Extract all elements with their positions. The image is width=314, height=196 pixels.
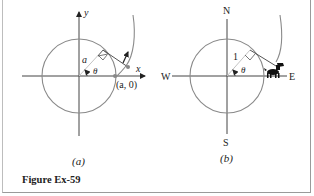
panel-a: y x a θ (a, 0) (a) [22,7,145,168]
north-label: N [223,5,230,16]
leash-line-b [250,50,276,66]
radius-line-b [227,50,250,76]
velocity-arrow-a [123,52,128,63]
figure-caption: Figure Ex-59 [22,174,80,185]
theta-label-b: θ [241,65,246,75]
angle-arc-a [85,70,87,76]
east-label: E [289,71,295,82]
figure-canvas: y x a θ (a, 0) (a) N [0,0,314,196]
x-axis-label: x [135,63,141,74]
panel-label-a: (a) [72,155,85,168]
y-axis-label: y [83,7,89,18]
involute-curve-a [116,15,134,77]
angle-arc-b [233,70,235,76]
point-a0 [113,74,117,78]
panel-b: N S W E 1 θ (b) [161,5,295,165]
point-label-a0: (a, 0) [116,79,137,91]
west-label: W [161,71,171,82]
south-label: S [223,137,229,148]
theta-label-a: θ [93,66,98,76]
involute-curve-b [276,15,282,62]
radius-label-b: 1 [233,51,238,62]
radius-label-a: a [82,54,87,65]
right-angle-box-b [245,54,255,60]
panel-label-b: (b) [220,152,233,165]
point-on-curve-a [126,65,130,69]
